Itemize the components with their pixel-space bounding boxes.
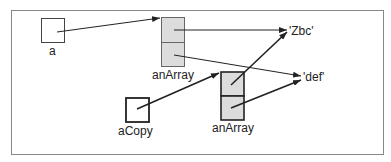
variable-acopy-box (126, 98, 149, 122)
label-a: a (49, 44, 56, 58)
arrow-copy0-to-zbc (231, 32, 287, 85)
label-string-def: 'def' (303, 70, 324, 84)
arrow-a-to-array (57, 18, 160, 32)
label-anarray-bottom: anArray (212, 121, 254, 135)
array-top-cell-1 (162, 43, 185, 67)
label-acopy: aCopy (118, 124, 153, 138)
variable-a-box (42, 19, 65, 43)
label-anarray-top: anArray (152, 68, 194, 82)
label-string-zbc: 'Zbc' (289, 24, 314, 38)
reference-diagram (0, 0, 391, 162)
